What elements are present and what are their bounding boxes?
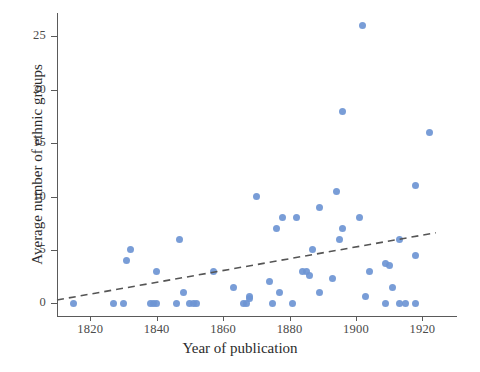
x-axis-label: Year of publication — [0, 340, 480, 357]
data-point — [173, 300, 180, 307]
data-point — [230, 284, 237, 291]
data-point — [412, 182, 419, 189]
data-point — [273, 225, 280, 232]
data-point — [329, 275, 336, 282]
data-point — [253, 193, 260, 200]
data-point — [396, 236, 403, 243]
y-axis-label: Average number of ethnic groups — [29, 15, 46, 315]
data-point — [316, 289, 323, 296]
data-point — [389, 284, 396, 291]
data-point — [412, 252, 419, 259]
data-point — [279, 214, 286, 221]
x-axis-line — [57, 316, 457, 317]
plot-area — [57, 13, 449, 316]
x-tick-label-1840: 1840 — [127, 322, 187, 337]
data-point — [356, 214, 363, 221]
data-point — [210, 268, 217, 275]
data-point — [123, 257, 130, 264]
x-tick-1920 — [422, 316, 423, 321]
data-point — [127, 246, 134, 253]
data-point — [412, 300, 419, 307]
data-point — [153, 300, 160, 307]
data-point — [362, 293, 369, 300]
data-point — [289, 300, 296, 307]
x-tick-label-1880: 1880 — [260, 322, 320, 337]
data-point — [269, 300, 276, 307]
x-tick-1900 — [356, 316, 357, 321]
data-point — [336, 236, 343, 243]
data-point — [293, 214, 300, 221]
data-point — [193, 300, 200, 307]
data-point — [276, 289, 283, 296]
data-point — [180, 289, 187, 296]
scatter-chart-figure: 0510152025182018401860188019001920 Year … — [0, 0, 480, 372]
x-tick-label-1920: 1920 — [392, 322, 452, 337]
data-point — [426, 129, 433, 136]
data-point — [339, 225, 346, 232]
data-point — [70, 300, 77, 307]
data-point — [120, 300, 127, 307]
x-tick-label-1860: 1860 — [193, 322, 253, 337]
data-point — [176, 236, 183, 243]
x-tick-1820 — [90, 316, 91, 321]
data-point — [339, 108, 346, 115]
data-point — [366, 268, 373, 275]
x-tick-label-1900: 1900 — [326, 322, 386, 337]
data-point — [306, 272, 313, 279]
data-point — [386, 262, 393, 269]
data-point — [333, 188, 340, 195]
data-point — [382, 300, 389, 307]
x-tick-1840 — [157, 316, 158, 321]
data-point — [316, 204, 323, 211]
data-point — [402, 300, 409, 307]
x-tick-1860 — [223, 316, 224, 321]
data-point — [153, 268, 160, 275]
data-point — [359, 22, 366, 29]
data-point — [266, 278, 273, 285]
x-tick-label-1820: 1820 — [60, 322, 120, 337]
data-point — [110, 300, 117, 307]
data-point — [309, 246, 316, 253]
x-tick-1880 — [290, 316, 291, 321]
